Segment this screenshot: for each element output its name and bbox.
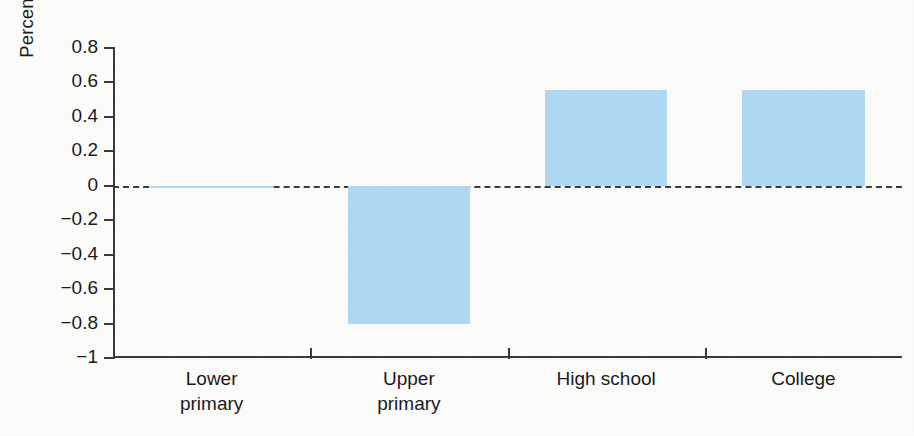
plot-area: 0.80.60.40.20−0.2−0.4−0.6−0.8−1 [113,48,902,358]
chart-figure: Percentage change by education level 0.8… [0,0,914,436]
y-axis-tick-label: 0 [87,173,98,197]
y-axis-tick: −0.4 [104,254,115,256]
bar [150,186,272,188]
x-axis-category-label: Lower primary [113,366,310,416]
y-axis-tick: 0.2 [104,150,115,152]
y-axis-tick: −0.8 [104,323,115,325]
y-axis-tick: −1 [104,357,115,359]
x-axis-category-label: College [705,366,902,391]
y-axis-tick-label: −0.2 [60,207,98,231]
x-axis-tick [310,348,312,359]
y-axis-tick: 0 [104,185,115,187]
y-axis-tick: −0.2 [104,219,115,221]
y-axis-tick: 0.8 [104,47,115,49]
y-axis-title: Percentage change by education level [14,0,40,64]
y-axis-tick-label: 0.8 [72,35,98,59]
y-axis-tick: −0.6 [104,288,115,290]
x-axis-tick [508,348,510,359]
y-axis-tick-label: −0.4 [60,242,98,266]
y-axis-spine [113,48,115,358]
y-axis-tick-label: 0.4 [72,104,98,128]
y-axis-tick-label: −0.8 [60,311,98,335]
y-axis-tick-label: −1 [76,345,98,369]
x-axis-category-label: Upper primary [310,366,507,416]
bar [545,90,667,186]
y-axis-tick: 0.4 [104,116,115,118]
x-axis-tick [705,348,707,359]
y-axis-tick-label: −0.6 [60,276,98,300]
bar [742,90,864,186]
bar [348,186,470,324]
y-axis-tick-label: 0.6 [72,69,98,93]
y-axis-tick: 0.6 [104,81,115,83]
y-axis-tick-label: 0.2 [72,138,98,162]
x-axis-category-label: High school [508,366,705,391]
